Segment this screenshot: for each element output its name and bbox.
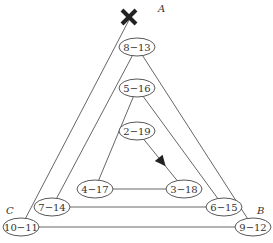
corner-label-c: C bbox=[6, 205, 14, 216]
node-label: 6−15 bbox=[210, 202, 237, 213]
node-label: 8−13 bbox=[123, 42, 150, 53]
node-n4_17: 4−17 bbox=[77, 180, 113, 198]
corner-label-a: A bbox=[157, 3, 165, 14]
arrow-icon bbox=[155, 155, 166, 167]
node-n6_15: 6−15 bbox=[206, 198, 242, 216]
node-n3_18: 3−18 bbox=[166, 180, 202, 198]
node-label: 7−14 bbox=[38, 202, 65, 213]
node-n10_11: 10−11 bbox=[3, 218, 39, 236]
node-label: 3−18 bbox=[170, 184, 197, 195]
node-n5_16: 5−16 bbox=[119, 79, 155, 97]
arrows bbox=[155, 155, 166, 167]
node-n2_19: 2−19 bbox=[119, 122, 155, 140]
nodes: 8−135−162−194−173−187−146−1510−119−12 bbox=[3, 38, 271, 236]
node-n9_12: 9−12 bbox=[235, 218, 271, 236]
triangle-route-diagram: 8−135−162−194−173−187−146−1510−119−12 A … bbox=[0, 0, 273, 243]
node-label: 5−16 bbox=[123, 83, 150, 94]
node-n8_13: 8−13 bbox=[119, 38, 155, 56]
cross-icon bbox=[122, 10, 136, 24]
node-label: 4−17 bbox=[81, 184, 108, 195]
node-n7_14: 7−14 bbox=[34, 198, 70, 216]
node-label: 9−12 bbox=[239, 222, 266, 233]
node-label: 10−11 bbox=[4, 222, 38, 233]
node-label: 2−19 bbox=[123, 126, 150, 137]
corner-label-b: B bbox=[256, 205, 264, 216]
